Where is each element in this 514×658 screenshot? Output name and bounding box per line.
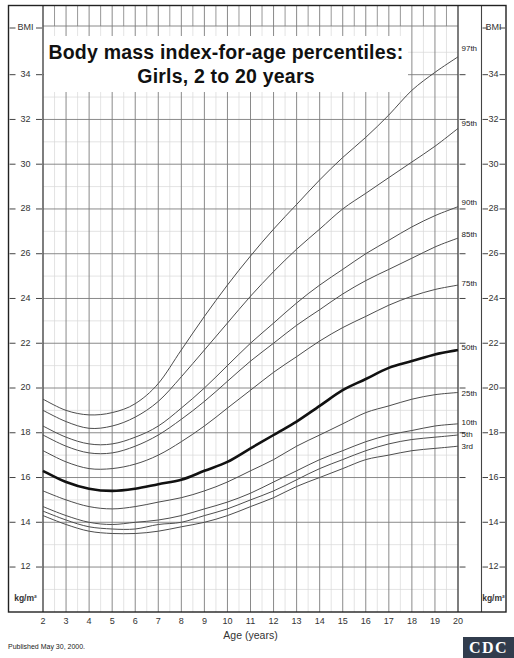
chart-title-line1: Body mass index-for-age percentiles: [48, 40, 403, 64]
y-tick-label-left: 26 [20, 248, 30, 258]
y-tick-label-left: 14 [20, 517, 30, 527]
x-tick-label: 18 [407, 616, 417, 626]
cdc-logo: CDC [463, 637, 514, 658]
x-tick-label: 8 [179, 616, 184, 626]
bmi-chart-page: BMIBMI3434323230302828262624242222202018… [0, 0, 514, 658]
axes-layer: BMIBMI3434323230302828262624242222202018… [9, 6, 507, 642]
x-tick-label: 20 [453, 616, 463, 626]
x-tick-label: 3 [64, 616, 69, 626]
percentile-label-50th: 50th [462, 343, 478, 352]
y-tick-label-right: 16 [488, 472, 498, 482]
x-tick-label: 16 [361, 616, 371, 626]
y-tick-label-right: 32 [488, 114, 498, 124]
y-unit-label-right: kg/m² [482, 593, 505, 603]
percentile-label-90th: 90th [462, 198, 478, 207]
x-tick-label: 7 [156, 616, 161, 626]
x-tick-label: 14 [315, 616, 325, 626]
published-date: Published May 30, 2000. [8, 643, 85, 650]
y-tick-label-right: 26 [488, 248, 498, 258]
percentile-label-75th: 75th [462, 279, 478, 288]
y-tick-label-right: 18 [488, 427, 498, 437]
y-tick-label-right: 12 [488, 561, 498, 571]
y-tick-label-left: 16 [20, 472, 30, 482]
y-tick-label-right: 30 [488, 159, 498, 169]
x-axis-title: Age (years) [223, 629, 277, 641]
labels-layer: 97th95th90th85th75th50th25th10th5th3rd [462, 44, 478, 451]
x-tick-label: 4 [87, 616, 92, 626]
x-tick-label: 17 [384, 616, 394, 626]
y-tick-label-left: 18 [20, 427, 30, 437]
x-tick-label: 13 [292, 616, 302, 626]
y-tick-label-right: 22 [488, 338, 498, 348]
y-tick-label-right: 24 [488, 293, 498, 303]
x-tick-label: 15 [338, 616, 348, 626]
y-tick-label-right: 14 [488, 517, 498, 527]
x-tick-label: 2 [40, 616, 45, 626]
percentile-label-95th: 95th [462, 119, 478, 128]
y-tick-label-left: 30 [20, 159, 30, 169]
x-tick-label: 6 [133, 616, 138, 626]
percentile-label-85th: 85th [462, 230, 478, 239]
y-tick-label-left: 22 [20, 338, 30, 348]
x-tick-label: 19 [430, 616, 440, 626]
y-axis-title-left: BMI [17, 22, 33, 32]
chart-title-line2: Girls, 2 to 20 years [137, 64, 314, 88]
percentile-label-10th: 10th [462, 418, 478, 427]
percentile-label-5th: 5th [462, 430, 473, 439]
x-tick-label: 9 [202, 616, 207, 626]
x-tick-label: 5 [110, 616, 115, 626]
y-tick-label-left: 28 [20, 203, 30, 213]
y-axis-title-right: BMI [485, 22, 501, 32]
y-tick-label-left: 20 [20, 382, 30, 392]
y-unit-label-left: kg/m² [14, 593, 37, 603]
y-tick-label-left: 24 [20, 293, 30, 303]
percentile-label-97th: 97th [462, 44, 478, 53]
chart-title-box: Body mass index-for-age percentiles: Gir… [44, 36, 408, 92]
x-tick-label: 11 [246, 616, 255, 626]
y-tick-label-left: 32 [20, 114, 30, 124]
x-tick-label: 12 [269, 616, 279, 626]
y-tick-label-right: 34 [488, 69, 498, 79]
x-tick-label: 10 [222, 616, 232, 626]
y-tick-label-right: 20 [488, 382, 498, 392]
y-tick-label-left: 12 [20, 561, 30, 571]
grid-layer [43, 6, 458, 613]
bmi-percentile-chart: BMIBMI3434323230302828262624242222202018… [0, 0, 514, 658]
y-tick-label-right: 28 [488, 203, 498, 213]
y-tick-label-left: 34 [20, 69, 30, 79]
percentile-label-3rd: 3rd [462, 442, 474, 451]
percentile-label-25th: 25th [462, 389, 478, 398]
